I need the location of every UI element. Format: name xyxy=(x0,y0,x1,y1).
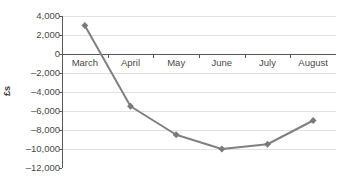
y-axis-tick-label: –10,000 xyxy=(14,144,60,154)
data-point-august xyxy=(310,117,317,124)
x-axis-label-may: May xyxy=(167,58,185,68)
y-axis-tick-labels: 4,0002,0000–2,000–4,000–6,000–8,000–10,0… xyxy=(12,0,60,182)
y-axis-tick-mark xyxy=(59,168,62,169)
y-axis-tick-mark xyxy=(59,16,62,17)
y-axis-tick-mark xyxy=(59,54,62,55)
y-axis-spine xyxy=(62,16,63,168)
y-axis-tick-mark xyxy=(59,130,62,131)
x-axis-label-july: July xyxy=(259,58,276,68)
y-axis-tick-mark xyxy=(59,111,62,112)
y-axis-tick-label: –2,000 xyxy=(14,68,60,78)
y-axis-tick-label: –12,000 xyxy=(14,163,60,173)
line-chart: £s 4,0002,0000–2,000–4,000–6,000–8,000–1… xyxy=(0,0,340,182)
y-axis-tick-label: 0 xyxy=(14,49,60,59)
y-axis-tick-label: 2,000 xyxy=(14,30,60,40)
x-axis-label-june: June xyxy=(212,58,233,68)
y-axis-title-text: £s xyxy=(2,86,12,96)
x-axis-label-august: August xyxy=(298,58,328,68)
data-point-june xyxy=(218,146,225,153)
chart-canvas xyxy=(62,16,336,168)
y-axis-tick-label: –6,000 xyxy=(14,106,60,116)
y-axis-tick-label: –8,000 xyxy=(14,125,60,135)
data-point-july xyxy=(264,141,271,148)
y-axis-tick-mark xyxy=(59,149,62,150)
y-axis-tick-label: –4,000 xyxy=(14,87,60,97)
y-axis-tick-mark xyxy=(59,92,62,93)
x-axis-label-march: March xyxy=(72,58,98,68)
x-axis-label-april: April xyxy=(121,58,140,68)
y-axis-tick-mark xyxy=(59,35,62,36)
plot-area xyxy=(62,16,336,168)
y-axis-tick-label: 4,000 xyxy=(14,11,60,21)
gridlines xyxy=(62,16,336,168)
data-markers xyxy=(81,22,316,152)
y-axis-tick-mark xyxy=(59,73,62,74)
